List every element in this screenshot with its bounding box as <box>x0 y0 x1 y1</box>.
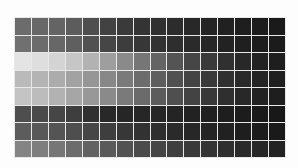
swatch-cell <box>201 106 217 123</box>
swatch-cell <box>117 36 133 53</box>
swatch-cell <box>252 88 268 105</box>
swatch-cell <box>201 53 217 70</box>
swatch-cell <box>100 36 116 53</box>
swatch-cell <box>49 106 65 123</box>
swatch-cell <box>100 53 116 70</box>
swatch-cell <box>83 53 99 70</box>
swatch-cell <box>15 123 31 140</box>
swatch-cell <box>235 71 251 88</box>
swatch-cell <box>66 53 82 70</box>
swatch-cell <box>167 123 183 140</box>
swatch-cell <box>218 36 234 53</box>
swatch-cell <box>201 123 217 140</box>
swatch-cell <box>134 18 150 35</box>
swatch-cell <box>32 53 48 70</box>
swatch-cell <box>151 88 167 105</box>
swatch-cell <box>252 18 268 35</box>
swatch-cell <box>32 71 48 88</box>
swatch-cell <box>83 71 99 88</box>
swatch-cell <box>117 141 133 158</box>
swatch-cell <box>218 123 234 140</box>
swatch-cell <box>218 53 234 70</box>
swatch-cell <box>100 141 116 158</box>
swatch-cell <box>252 71 268 88</box>
swatch-cell <box>134 71 150 88</box>
swatch-cell <box>235 18 251 35</box>
swatch-cell <box>151 71 167 88</box>
swatch-cell <box>184 18 200 35</box>
swatch-cell <box>269 141 285 158</box>
swatch-cell <box>167 141 183 158</box>
swatch-cell <box>134 36 150 53</box>
swatch-cell <box>269 53 285 70</box>
swatch-cell <box>269 71 285 88</box>
swatch-cell <box>49 71 65 88</box>
swatch-cell <box>83 36 99 53</box>
swatch-cell <box>184 71 200 88</box>
swatch-cell <box>117 88 133 105</box>
swatch-cell <box>49 53 65 70</box>
swatch-cell <box>167 106 183 123</box>
swatch-cell <box>235 123 251 140</box>
swatch-cell <box>167 53 183 70</box>
swatch-cell <box>49 123 65 140</box>
swatch-cell <box>134 88 150 105</box>
swatch-cell <box>218 71 234 88</box>
swatch-cell <box>15 71 31 88</box>
swatch-cell <box>269 123 285 140</box>
swatch-cell <box>201 141 217 158</box>
swatch-cell <box>218 106 234 123</box>
swatch-cell <box>201 18 217 35</box>
swatch-cell <box>100 71 116 88</box>
swatch-cell <box>32 18 48 35</box>
swatch-cell <box>117 18 133 35</box>
swatch-cell <box>269 106 285 123</box>
swatch-cell <box>83 18 99 35</box>
swatch-cell <box>235 88 251 105</box>
swatch-cell <box>184 36 200 53</box>
swatch-cell <box>134 106 150 123</box>
swatch-cell <box>49 18 65 35</box>
swatch-cell <box>269 88 285 105</box>
swatch-cell <box>184 123 200 140</box>
swatch-cell <box>100 88 116 105</box>
swatch-cell <box>66 123 82 140</box>
swatch-cell <box>218 88 234 105</box>
swatch-cell <box>184 88 200 105</box>
swatch-cell <box>134 123 150 140</box>
swatch-cell <box>83 123 99 140</box>
swatch-cell <box>49 141 65 158</box>
swatch-cell <box>117 53 133 70</box>
swatch-cell <box>32 141 48 158</box>
swatch-cell <box>134 141 150 158</box>
swatch-cell <box>235 106 251 123</box>
swatch-cell <box>252 53 268 70</box>
swatch-cell <box>100 123 116 140</box>
swatch-cell <box>151 141 167 158</box>
swatch-cell <box>15 53 31 70</box>
swatch-cell <box>252 123 268 140</box>
swatch-cell <box>269 18 285 35</box>
swatch-cell <box>117 106 133 123</box>
swatch-cell <box>83 141 99 158</box>
swatch-cell <box>235 36 251 53</box>
swatch-cell <box>184 141 200 158</box>
swatch-cell <box>100 18 116 35</box>
swatch-cell <box>151 106 167 123</box>
swatch-cell <box>151 123 167 140</box>
swatch-cell <box>218 18 234 35</box>
swatch-cell <box>15 141 31 158</box>
swatch-cell <box>49 36 65 53</box>
swatch-cell <box>235 141 251 158</box>
swatch-cell <box>167 71 183 88</box>
swatch-cell <box>151 53 167 70</box>
swatch-cell <box>134 53 150 70</box>
swatch-cell <box>83 106 99 123</box>
swatch-cell <box>15 18 31 35</box>
swatch-cell <box>184 53 200 70</box>
swatch-cell <box>235 53 251 70</box>
swatch-cell <box>252 141 268 158</box>
swatch-cell <box>184 106 200 123</box>
swatch-cell <box>167 88 183 105</box>
swatch-cell <box>83 88 99 105</box>
